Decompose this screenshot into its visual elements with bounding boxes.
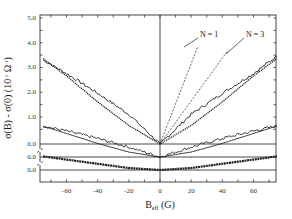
x-tick-label: -20 — [124, 187, 134, 195]
y-tick-label: 0.0 — [27, 140, 36, 148]
y-tick-label: 3.0 — [27, 63, 36, 71]
x-tick-label: 20 — [188, 187, 196, 195]
chart: N = 1N = 3 -60-40-2002040605.04.03.02.01… — [0, 0, 292, 219]
x-tick-label: -60 — [62, 187, 72, 195]
annotation-leader-n3 — [226, 38, 244, 54]
x-tick-label: 60 — [250, 187, 258, 195]
y-tick-label: 4.0 — [27, 39, 36, 47]
series-n-eq-1 — [160, 48, 197, 145]
y-tick-label: 5.0 — [27, 14, 36, 22]
y-tick-label: 0.0 — [27, 153, 36, 161]
annotation-n1: N = 1 — [200, 30, 218, 39]
x-axis-label: Beff (G) — [145, 199, 175, 211]
x-tick-label: 0 — [158, 187, 162, 195]
annotation-leader-n1 — [184, 38, 198, 47]
y-tick-label: 2.0 — [27, 88, 36, 96]
annotations: N = 1N = 3 — [184, 30, 264, 54]
axis-break-gap — [39, 149, 41, 152]
y-axis-label: σ(B) - σ(0) (10-5 Ω-1) — [2, 57, 14, 139]
axis-break-gap — [39, 162, 41, 165]
x-tick-label: -40 — [93, 187, 103, 195]
y-tick-label: 0.0 — [27, 166, 36, 174]
x-tick-label: 40 — [219, 187, 227, 195]
y-tick-label: 1.0 — [27, 113, 36, 121]
annotation-n3: N = 3 — [246, 30, 264, 39]
